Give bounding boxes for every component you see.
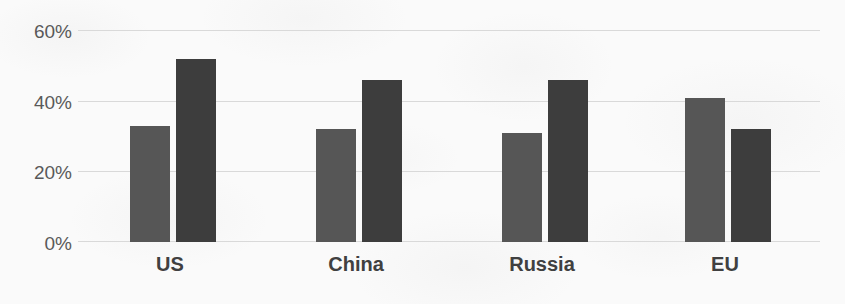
bar-eu-series-b	[731, 129, 771, 242]
y-axis-tick-label: 60%	[12, 22, 72, 41]
y-axis: 60% 40% 20% 0%	[0, 0, 72, 304]
bar-china-series-a	[316, 129, 356, 242]
bar-china-series-b	[362, 80, 402, 242]
bar-group-china	[316, 30, 402, 242]
y-axis-tick-label: 20%	[12, 163, 72, 182]
bar-us-series-a	[130, 126, 170, 242]
plot-area	[78, 30, 820, 242]
category-label-china: China	[286, 254, 426, 274]
bar-group-eu	[685, 30, 771, 242]
bar-group-russia	[502, 30, 588, 242]
grouped-bar-chart: 60% 40% 20% 0% US China Russia EU	[0, 0, 845, 304]
category-label-us: US	[100, 254, 240, 274]
y-axis-tick-label: 0%	[12, 234, 72, 253]
category-label-russia: Russia	[472, 254, 612, 274]
bar-eu-series-a	[685, 98, 725, 242]
category-label-eu: EU	[655, 254, 795, 274]
bar-group-us	[130, 30, 216, 242]
bar-russia-series-b	[548, 80, 588, 242]
bar-russia-series-a	[502, 133, 542, 242]
bar-us-series-b	[176, 59, 216, 242]
y-axis-tick-label: 40%	[12, 93, 72, 112]
